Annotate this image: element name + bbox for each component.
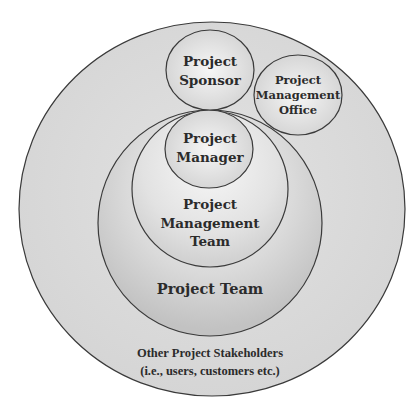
project-team-label: Project Team — [157, 280, 264, 297]
pmt-label-line3: Team — [190, 233, 230, 249]
pmo-label-line2: Management — [256, 88, 341, 102]
node-project-management-office: Project Management Office — [254, 55, 342, 135]
pmo-label-line3: Office — [279, 103, 317, 117]
stakeholder-diagram: Other Project Stakeholders (i.e., users,… — [0, 0, 418, 409]
pmt-label-line2: Management — [160, 215, 260, 231]
project-sponsor-label-line1: Project — [183, 53, 238, 69]
node-project-sponsor: Project Sponsor — [166, 30, 254, 110]
other-stakeholders-label-line2: (i.e., users, customers etc.) — [140, 364, 280, 378]
project-manager-label-line2: Manager — [176, 149, 244, 165]
project-manager-label-line1: Project — [183, 130, 238, 146]
node-project-manager: Project Manager — [165, 110, 253, 188]
pmo-label-line1: Project — [275, 73, 322, 87]
project-sponsor-circle — [166, 30, 254, 110]
other-stakeholders-label-line1: Other Project Stakeholders — [137, 346, 283, 360]
pmt-label-line1: Project — [183, 196, 238, 212]
project-sponsor-label-line2: Sponsor — [179, 72, 242, 88]
